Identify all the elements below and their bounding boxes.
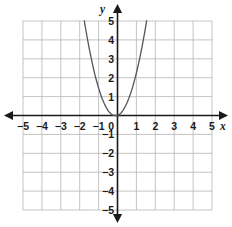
- x-tick-label: −4: [36, 120, 48, 132]
- parabola-curve: [84, 21, 146, 116]
- coordinate-graph-figure: −5−4−3−2−112345 543210−1−2−3−4−5 x y: [0, 0, 232, 227]
- y-tick-label: −1: [102, 128, 114, 140]
- axis-lines: [4, 4, 228, 223]
- y-tick-label: 4: [108, 34, 114, 46]
- y-tick-label: −4: [102, 185, 114, 197]
- x-tick-label: −3: [55, 120, 67, 132]
- x-axis-arrow-left: [4, 111, 13, 120]
- x-tick-label: 3: [171, 120, 177, 132]
- y-tick-label: −5: [102, 204, 114, 216]
- x-tick-label: −5: [17, 120, 29, 132]
- y-tick-label: −3: [102, 166, 114, 178]
- x-tick-label: 4: [190, 120, 196, 132]
- x-axis-arrow-right: [219, 111, 228, 120]
- x-axis-label: x: [219, 120, 226, 132]
- y-axis-arrow-down: [113, 214, 122, 223]
- y-axis-label: y: [98, 3, 106, 16]
- y-axis-arrow-up: [113, 4, 122, 13]
- x-tick-label: 5: [209, 120, 215, 132]
- y-tick-label: 3: [108, 53, 114, 65]
- parabola-graph-svg: −5−4−3−2−112345 543210−1−2−3−4−5 x y: [0, 0, 232, 227]
- x-tick-label: −2: [74, 120, 86, 132]
- x-axis-tick-labels: −5−4−3−2−112345: [17, 120, 215, 132]
- x-tick-label: 2: [152, 120, 158, 132]
- y-tick-label: 5: [108, 15, 114, 27]
- y-tick-label: −2: [102, 147, 114, 159]
- y-tick-label: 1: [108, 91, 114, 103]
- y-tick-label: 2: [108, 72, 114, 84]
- x-tick-label: 1: [133, 120, 139, 132]
